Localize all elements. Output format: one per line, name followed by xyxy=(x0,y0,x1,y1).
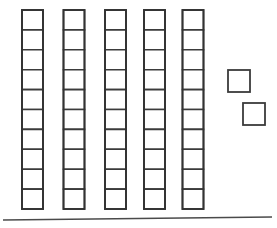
unit-square[interactable] xyxy=(22,169,43,189)
unit-square[interactable] xyxy=(144,30,165,50)
ten-rod-4[interactable] xyxy=(144,10,165,209)
unit-square[interactable] xyxy=(144,149,165,169)
unit-square[interactable] xyxy=(64,110,85,130)
unit-square[interactable] xyxy=(183,129,204,149)
loose-unit-square-2[interactable] xyxy=(243,103,265,125)
unit-square[interactable] xyxy=(64,189,85,209)
unit-square[interactable] xyxy=(105,90,126,110)
unit-square[interactable] xyxy=(22,90,43,110)
unit-square[interactable] xyxy=(183,169,204,189)
unit-square[interactable] xyxy=(22,129,43,149)
unit-square[interactable] xyxy=(22,149,43,169)
unit-square[interactable] xyxy=(64,129,85,149)
unit-square[interactable] xyxy=(64,90,85,110)
unit-square[interactable] xyxy=(144,10,165,30)
ten-rod-1[interactable] xyxy=(22,10,43,209)
unit-square[interactable] xyxy=(144,169,165,189)
unit-square[interactable] xyxy=(22,189,43,209)
unit-square[interactable] xyxy=(64,30,85,50)
unit-square[interactable] xyxy=(105,129,126,149)
unit-square[interactable] xyxy=(144,90,165,110)
unit-square[interactable] xyxy=(183,50,204,70)
ten-rod-5[interactable] xyxy=(183,10,204,209)
ten-rod-3[interactable] xyxy=(105,10,126,209)
unit-square[interactable] xyxy=(144,70,165,90)
unit-square[interactable] xyxy=(144,189,165,209)
unit-square[interactable] xyxy=(105,10,126,30)
unit-square[interactable] xyxy=(22,50,43,70)
unit-square[interactable] xyxy=(144,129,165,149)
unit-square[interactable] xyxy=(105,50,126,70)
unit-square[interactable] xyxy=(144,50,165,70)
unit-square[interactable] xyxy=(22,10,43,30)
unit-square[interactable] xyxy=(183,30,204,50)
unit-square[interactable] xyxy=(22,30,43,50)
ten-rod-2[interactable] xyxy=(64,10,85,209)
unit-square[interactable] xyxy=(183,90,204,110)
loose-unit-square-1[interactable] xyxy=(228,70,250,92)
unit-square[interactable] xyxy=(183,70,204,90)
unit-square[interactable] xyxy=(105,110,126,130)
unit-square[interactable] xyxy=(144,110,165,130)
unit-square[interactable] xyxy=(22,70,43,90)
unit-square[interactable] xyxy=(183,149,204,169)
unit-square[interactable] xyxy=(64,10,85,30)
unit-square[interactable] xyxy=(105,30,126,50)
unit-square[interactable] xyxy=(183,110,204,130)
unit-square[interactable] xyxy=(64,169,85,189)
unit-square[interactable] xyxy=(64,50,85,70)
unit-square[interactable] xyxy=(105,169,126,189)
unit-square[interactable] xyxy=(64,70,85,90)
unit-square[interactable] xyxy=(183,189,204,209)
unit-square[interactable] xyxy=(22,110,43,130)
unit-square[interactable] xyxy=(183,10,204,30)
unit-square[interactable] xyxy=(64,149,85,169)
unit-square[interactable] xyxy=(105,149,126,169)
diagram-canvas: Base ten blocks: five rods of ten and tw… xyxy=(0,0,277,228)
unit-square[interactable] xyxy=(105,189,126,209)
base-ten-blocks-figure xyxy=(0,0,277,228)
unit-square[interactable] xyxy=(105,70,126,90)
